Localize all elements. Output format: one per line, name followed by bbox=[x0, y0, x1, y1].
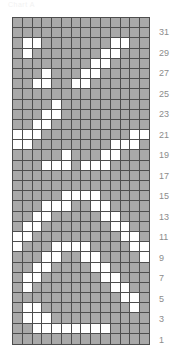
chart-cell-filled[interactable] bbox=[13, 212, 23, 222]
chart-cell-filled[interactable] bbox=[121, 100, 131, 110]
chart-cell-empty[interactable] bbox=[23, 273, 33, 283]
chart-cell-filled[interactable] bbox=[101, 293, 111, 303]
chart-cell-filled[interactable] bbox=[72, 38, 82, 48]
chart-cell-filled[interactable] bbox=[52, 38, 62, 48]
chart-cell-filled[interactable] bbox=[13, 222, 23, 232]
chart-cell-filled[interactable] bbox=[91, 293, 101, 303]
chart-cell-filled[interactable] bbox=[130, 252, 140, 262]
chart-cell-empty[interactable] bbox=[13, 140, 23, 150]
chart-cell-filled[interactable] bbox=[111, 89, 121, 99]
chart-cell-filled[interactable] bbox=[101, 130, 111, 140]
chart-cell-filled[interactable] bbox=[81, 263, 91, 273]
chart-cell-filled[interactable] bbox=[130, 38, 140, 48]
chart-cell-filled[interactable] bbox=[62, 334, 72, 344]
chart-cell-filled[interactable] bbox=[81, 38, 91, 48]
chart-cell-filled[interactable] bbox=[121, 303, 131, 313]
chart-cell-filled[interactable] bbox=[33, 242, 43, 252]
chart-cell-empty[interactable] bbox=[101, 161, 111, 171]
chart-cell-filled[interactable] bbox=[52, 171, 62, 181]
chart-cell-filled[interactable] bbox=[52, 212, 62, 222]
chart-cell-filled[interactable] bbox=[101, 28, 111, 38]
chart-cell-filled[interactable] bbox=[52, 18, 62, 28]
chart-cell-empty[interactable] bbox=[13, 130, 23, 140]
chart-cell-filled[interactable] bbox=[23, 150, 33, 160]
chart-cell-filled[interactable] bbox=[121, 171, 131, 181]
chart-cell-empty[interactable] bbox=[42, 69, 52, 79]
chart-cell-filled[interactable] bbox=[72, 18, 82, 28]
chart-cell-filled[interactable] bbox=[101, 334, 111, 344]
chart-cell-filled[interactable] bbox=[140, 120, 149, 130]
chart-cell-empty[interactable] bbox=[91, 252, 101, 262]
chart-cell-filled[interactable] bbox=[33, 28, 43, 38]
chart-cell-empty[interactable] bbox=[42, 212, 52, 222]
chart-cell-filled[interactable] bbox=[91, 140, 101, 150]
chart-cell-empty[interactable] bbox=[81, 161, 91, 171]
chart-cell-filled[interactable] bbox=[101, 100, 111, 110]
chart-cell-filled[interactable] bbox=[130, 120, 140, 130]
chart-cell-filled[interactable] bbox=[33, 18, 43, 28]
chart-cell-filled[interactable] bbox=[81, 283, 91, 293]
chart-cell-empty[interactable] bbox=[52, 324, 62, 334]
chart-cell-filled[interactable] bbox=[62, 303, 72, 313]
chart-cell-filled[interactable] bbox=[33, 191, 43, 201]
chart-cell-empty[interactable] bbox=[130, 242, 140, 252]
chart-cell-filled[interactable] bbox=[101, 18, 111, 28]
chart-cell-filled[interactable] bbox=[62, 28, 72, 38]
chart-cell-filled[interactable] bbox=[111, 100, 121, 110]
chart-cell-filled[interactable] bbox=[13, 89, 23, 99]
chart-cell-filled[interactable] bbox=[81, 89, 91, 99]
chart-cell-filled[interactable] bbox=[101, 232, 111, 242]
chart-cell-filled[interactable] bbox=[42, 130, 52, 140]
chart-cell-filled[interactable] bbox=[52, 140, 62, 150]
chart-cell-filled[interactable] bbox=[72, 28, 82, 38]
chart-cell-filled[interactable] bbox=[81, 293, 91, 303]
chart-cell-filled[interactable] bbox=[140, 181, 149, 191]
chart-cell-filled[interactable] bbox=[121, 110, 131, 120]
chart-cell-filled[interactable] bbox=[33, 59, 43, 69]
chart-cell-empty[interactable] bbox=[140, 252, 149, 262]
chart-cell-filled[interactable] bbox=[121, 161, 131, 171]
chart-cell-filled[interactable] bbox=[121, 69, 131, 79]
chart-cell-empty[interactable] bbox=[121, 140, 131, 150]
chart-cell-filled[interactable] bbox=[111, 334, 121, 344]
chart-cell-filled[interactable] bbox=[140, 38, 149, 48]
chart-cell-filled[interactable] bbox=[140, 324, 149, 334]
chart-cell-filled[interactable] bbox=[33, 181, 43, 191]
chart-cell-filled[interactable] bbox=[81, 222, 91, 232]
chart-cell-filled[interactable] bbox=[42, 273, 52, 283]
chart-cell-filled[interactable] bbox=[62, 120, 72, 130]
chart-cell-empty[interactable] bbox=[140, 130, 149, 140]
chart-cell-filled[interactable] bbox=[62, 181, 72, 191]
chart-cell-filled[interactable] bbox=[91, 130, 101, 140]
chart-cell-filled[interactable] bbox=[111, 293, 121, 303]
chart-cell-filled[interactable] bbox=[42, 303, 52, 313]
chart-cell-filled[interactable] bbox=[101, 120, 111, 130]
chart-cell-empty[interactable] bbox=[91, 324, 101, 334]
chart-cell-filled[interactable] bbox=[130, 79, 140, 89]
chart-cell-empty[interactable] bbox=[91, 201, 101, 211]
chart-cell-empty[interactable] bbox=[62, 242, 72, 252]
chart-cell-filled[interactable] bbox=[13, 273, 23, 283]
chart-cell-empty[interactable] bbox=[91, 161, 101, 171]
chart-cell-filled[interactable] bbox=[140, 171, 149, 181]
chart-cell-empty[interactable] bbox=[72, 79, 82, 89]
chart-cell-filled[interactable] bbox=[140, 263, 149, 273]
chart-cell-empty[interactable] bbox=[42, 201, 52, 211]
chart-cell-empty[interactable] bbox=[101, 324, 111, 334]
chart-cell-empty[interactable] bbox=[140, 242, 149, 252]
chart-cell-filled[interactable] bbox=[140, 283, 149, 293]
chart-cell-filled[interactable] bbox=[23, 181, 33, 191]
chart-cell-filled[interactable] bbox=[72, 293, 82, 303]
chart-cell-filled[interactable] bbox=[23, 79, 33, 89]
chart-cell-filled[interactable] bbox=[121, 49, 131, 59]
chart-cell-empty[interactable] bbox=[101, 59, 111, 69]
chart-cell-filled[interactable] bbox=[42, 18, 52, 28]
chart-cell-empty[interactable] bbox=[121, 222, 131, 232]
chart-cell-filled[interactable] bbox=[23, 252, 33, 262]
chart-cell-filled[interactable] bbox=[91, 49, 101, 59]
chart-cell-filled[interactable] bbox=[52, 293, 62, 303]
chart-cell-filled[interactable] bbox=[130, 191, 140, 201]
chart-cell-filled[interactable] bbox=[42, 171, 52, 181]
chart-cell-filled[interactable] bbox=[111, 303, 121, 313]
chart-cell-filled[interactable] bbox=[130, 110, 140, 120]
